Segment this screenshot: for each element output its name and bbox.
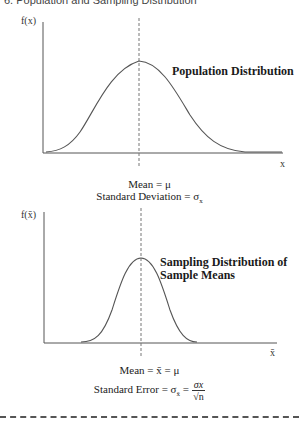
population-x-axis-label: x	[280, 158, 285, 169]
population-y-axis-label: f(x)	[21, 15, 36, 26]
sampling-title: Sampling Distribution of Sample Means	[160, 256, 287, 282]
population-sd-formula: Standard Deviation = σx	[0, 190, 299, 205]
sampling-mean-formula: Mean = x̄ = μ	[0, 364, 299, 376]
population-mean-formula: Mean = μ	[0, 178, 299, 190]
bottom-dashed-divider	[0, 416, 299, 418]
sampling-x-axis-label: x̄	[270, 347, 275, 358]
sampling-y-axis-label: f(x̄)	[21, 209, 36, 220]
population-title: Population Distribution	[172, 65, 294, 78]
standard-error-fraction: σx√n	[192, 379, 205, 402]
standard-error-formula: Standard Error = σx̄ = σx√n	[0, 379, 299, 402]
